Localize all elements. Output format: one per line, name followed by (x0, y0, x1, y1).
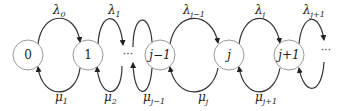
label-lambda-j-plus-1: λj+1 (302, 3, 325, 19)
state-node-j: j (214, 40, 244, 70)
birth-arc-0-1 (38, 18, 80, 44)
birth-arc-1-dots (98, 19, 123, 45)
birth-arc-j-jp1 (239, 18, 280, 44)
state-node-1: 1 (73, 40, 103, 70)
state-node-j-plus-1: j+1 (274, 40, 304, 70)
label-lambda-1: λ1 (107, 3, 121, 19)
birth-arc-jm1-j (170, 18, 218, 44)
label-mu-2: μ2 (104, 90, 117, 106)
svg-text:j−1: j−1 (146, 48, 170, 62)
state-node-j-minus-1: j−1 (145, 40, 175, 70)
state-transition-diagram: 0 1 ··· j−1 j j+1 ··· λ0 λ1 λj−1 λj λj+1… (0, 0, 342, 111)
svg-text:j+1: j+1 (275, 48, 299, 62)
label-mu-j: μj (198, 90, 209, 106)
label-mu-j-plus-1: μj+1 (255, 90, 277, 106)
state-node-0: 0 (13, 40, 43, 70)
death-arc-dots-1 (97, 66, 122, 92)
death-arc-j-jm1 (170, 67, 218, 92)
svg-text:1: 1 (84, 48, 92, 62)
birth-arc-jp1-dots (299, 19, 324, 44)
label-mu-1: μ1 (55, 90, 68, 106)
death-arc-jm1-dots (133, 63, 152, 91)
label-lambda-j: λj (254, 3, 266, 19)
death-arc-1-0 (38, 67, 80, 92)
ellipsis-right: ··· (321, 44, 332, 57)
label-lambda-0: λ0 (52, 3, 66, 19)
death-arc-jp1-j (239, 67, 280, 92)
birth-arc-dots-jm1 (133, 20, 152, 47)
label-mu-j-minus-1: μj−1 (143, 90, 165, 106)
death-arc-dots-jp1 (299, 62, 324, 88)
ellipsis-left: ··· (123, 48, 134, 61)
label-lambda-j-minus-1: λj−1 (182, 3, 205, 19)
svg-text:0: 0 (24, 48, 32, 62)
